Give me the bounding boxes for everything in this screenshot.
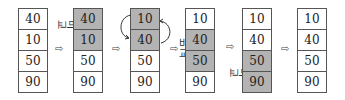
array-cell: 90 xyxy=(298,72,326,92)
array-cell-compared: 50 xyxy=(243,51,271,72)
array-step-4: 10 40 50 90 xyxy=(185,8,215,93)
array-cell: 10 xyxy=(243,9,271,30)
array-cell: 10 xyxy=(186,9,214,30)
array-cell-compared: 90 xyxy=(243,72,271,92)
right-arrow-icon: ⇨ xyxy=(226,42,234,52)
array-step-5: 10 40 50 90 xyxy=(242,8,272,93)
array-cell: 90 xyxy=(186,72,214,92)
array-cell: 40 xyxy=(298,30,326,51)
compare-label-char: 교 xyxy=(228,66,238,78)
array-cell: 40 xyxy=(243,30,271,51)
array-step-6: 10 40 50 90 xyxy=(297,8,327,93)
array-cell-compared: 40 xyxy=(186,30,214,51)
array-cell-compared: 50 xyxy=(186,51,214,72)
array-cell: 50 xyxy=(298,51,326,72)
array-cell: 10 xyxy=(298,9,326,30)
right-arrow-icon: ⇨ xyxy=(281,44,289,54)
